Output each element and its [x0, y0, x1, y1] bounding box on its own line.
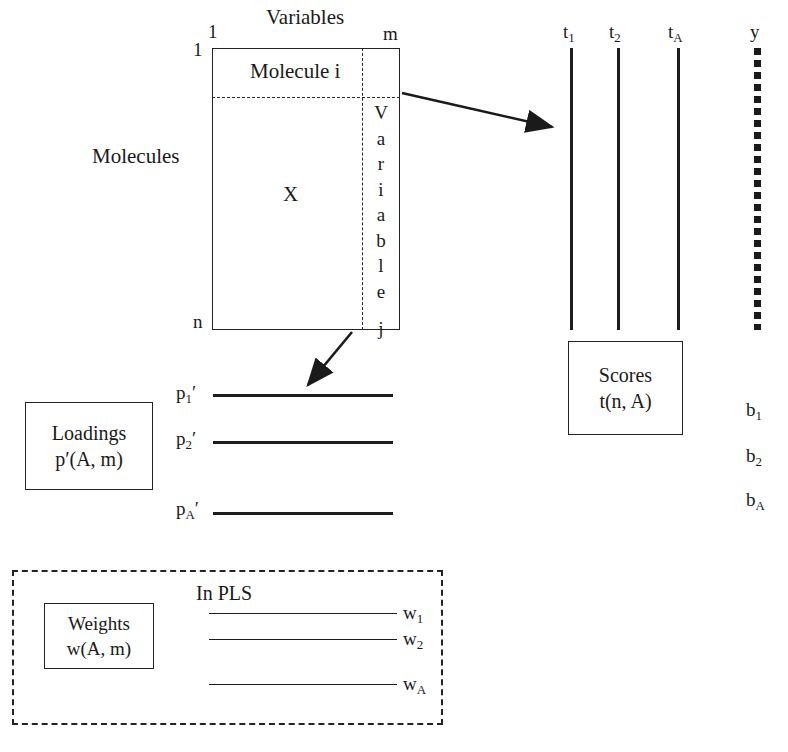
b-sub-2: A [756, 498, 765, 513]
regression-coefficient-0: b1 [746, 400, 762, 422]
variable-letter-5: b [366, 228, 396, 254]
variable-letter-3: i [366, 177, 396, 203]
weight-vector-line-1 [209, 639, 397, 640]
scores-box-line2: t(n, A) [599, 388, 651, 414]
y-response-vector [754, 48, 761, 330]
weights-box-line1: Weights [68, 611, 130, 636]
arrow-x-to-scores [400, 88, 570, 148]
loadings-box: Loadings p′(A, m) [25, 402, 153, 490]
loading-vector-label-0: p1′ [176, 383, 196, 405]
weight-vector-label-0: w1 [403, 603, 423, 625]
weight-vector-line-2 [209, 684, 397, 685]
pls-diagram-canvas: Variables 1 m 1 n Molecules Molecule i X… [0, 0, 788, 752]
p-base-0: p [176, 382, 186, 403]
w-base-1: w [403, 628, 417, 649]
b-sub-1: 2 [756, 454, 762, 469]
col-index-last-label: m [383, 24, 398, 44]
weight-vector-label-1: w2 [403, 629, 423, 651]
variable-j-column-label: V a r i a b l e j [366, 100, 396, 342]
score-vector-bar-1 [617, 48, 620, 330]
w-base-2: w [403, 673, 417, 694]
score-sub-2: A [673, 30, 682, 45]
scores-box: Scores t(n, A) [568, 341, 683, 435]
variable-letter-gap [366, 304, 396, 316]
variable-letter-1: a [366, 126, 396, 152]
loading-vector-line-2 [213, 512, 393, 515]
molecule-row-divider [212, 97, 400, 98]
loading-vector-line-0 [213, 394, 393, 397]
y-vector-label: y [750, 22, 760, 42]
regression-coefficient-1: b2 [746, 446, 762, 468]
x-matrix-body-label: X [283, 183, 298, 205]
variable-letter-4: a [366, 202, 396, 228]
w-sub-0: 1 [417, 611, 423, 626]
regression-coefficient-2: bA [746, 490, 765, 512]
b-base-0: b [746, 399, 756, 420]
p-base-1: p [176, 428, 186, 449]
weights-box-line2: w(A, m) [67, 636, 131, 661]
loading-vector-label-1: p2′ [176, 429, 196, 451]
p-prime-0: ′ [192, 382, 196, 403]
row-index-last-label: n [193, 312, 203, 332]
loading-vector-label-2: pA′ [176, 499, 199, 521]
variable-column-divider [362, 48, 363, 330]
score-vector-label-1: t2 [609, 22, 621, 44]
score-sub-0: 1 [568, 30, 574, 45]
weight-vector-line-0 [209, 613, 397, 614]
row-index-first-label: 1 [193, 40, 203, 60]
w-base-0: w [403, 602, 417, 623]
weights-box: Weights w(A, m) [44, 603, 154, 669]
p-prime-2: ′ [195, 498, 199, 519]
variable-letter-0: V [366, 100, 396, 126]
molecule-i-row-label: Molecule i [250, 60, 340, 82]
variable-letter-2: r [366, 151, 396, 177]
score-vector-label-2: tA [668, 22, 683, 44]
score-vector-bar-0 [570, 48, 573, 330]
variable-letter-6: l [366, 253, 396, 279]
p-prime-1: ′ [192, 428, 196, 449]
loadings-box-line1: Loadings [52, 420, 126, 446]
b-sub-0: 1 [756, 408, 762, 423]
score-vector-label-0: t1 [563, 22, 575, 44]
weight-vector-label-2: wA [403, 674, 426, 696]
molecules-axis-label: Molecules [92, 145, 179, 167]
b-base-1: b [746, 445, 756, 466]
loadings-box-line2: p′(A, m) [55, 446, 123, 472]
variables-axis-label: Variables [266, 6, 344, 28]
w-sub-2: A [417, 682, 426, 697]
arrow-x-to-loadings [290, 330, 380, 400]
p-base-2: p [176, 498, 186, 519]
loading-vector-line-1 [213, 441, 393, 444]
score-vector-bar-2 [677, 48, 680, 330]
p-sub-2: A [186, 507, 195, 522]
in-pls-label: In PLS [196, 583, 252, 604]
w-sub-1: 2 [417, 637, 423, 652]
b-base-2: b [746, 489, 756, 510]
score-sub-1: 2 [614, 30, 620, 45]
col-index-first-label: 1 [208, 22, 218, 42]
scores-box-line1: Scores [599, 362, 652, 388]
variable-letter-7: e [366, 279, 396, 305]
